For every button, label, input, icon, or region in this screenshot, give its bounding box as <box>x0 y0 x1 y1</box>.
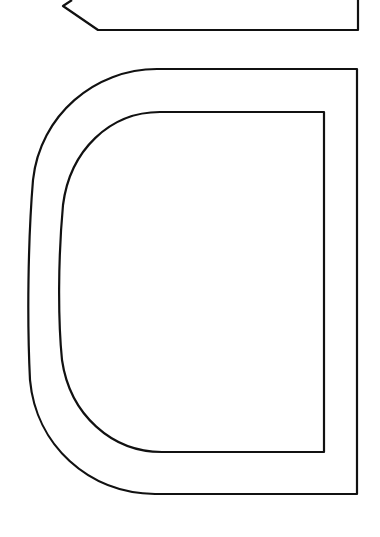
outer-d-shape <box>28 69 357 494</box>
pointer-tab-shape <box>63 0 358 30</box>
diagram-canvas <box>0 0 380 537</box>
inner-d-shape <box>59 112 324 452</box>
